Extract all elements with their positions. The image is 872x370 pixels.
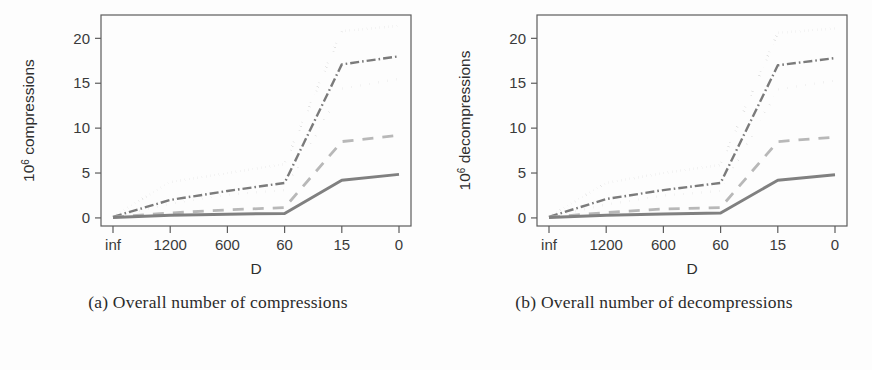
- x-tick-label: 1200: [154, 236, 187, 253]
- chart-a-svg: 05101520inf120060060150D106 compressions: [0, 0, 436, 290]
- x-tick-label: inf: [105, 236, 122, 253]
- svg-text:106 decompressions: 106 decompressions: [456, 50, 473, 190]
- caption-b: (b) Overall number of decompressions: [436, 292, 872, 313]
- series-group: [549, 28, 835, 217]
- plot-b: 05101520inf120060060150D106 decompressio…: [436, 0, 872, 290]
- series-line-series-1-dotted-top: [549, 28, 835, 216]
- x-tick-label: 600: [215, 236, 240, 253]
- series-line-series-3-dotted-sparse: [549, 81, 835, 217]
- series-line-series-2-dashdot: [549, 58, 835, 217]
- series-line-series-5-solid: [549, 175, 835, 218]
- figure-container: 05101520inf120060060150D106 compressions…: [0, 0, 872, 370]
- y-tick-label: 20: [73, 30, 90, 47]
- subfigure-b: 05101520inf120060060150D106 decompressio…: [436, 0, 872, 370]
- x-tick-label: 15: [333, 236, 350, 253]
- x-tick-label: 0: [831, 236, 839, 253]
- y-tick-label: 5: [82, 164, 90, 181]
- y-tick-label: 20: [509, 30, 526, 47]
- x-tick-label: inf: [541, 236, 558, 253]
- y-tick-label: 15: [73, 74, 90, 91]
- y-tick-label: 15: [509, 74, 526, 91]
- series-line-series-3-dotted-sparse: [113, 79, 399, 217]
- y-tick-label: 0: [82, 209, 90, 226]
- chart-b-svg: 05101520inf120060060150D106 decompressio…: [436, 0, 872, 290]
- series-line-series-2-dashdot: [113, 56, 399, 217]
- x-axis-title: D: [686, 260, 697, 277]
- y-tick-label: 10: [73, 119, 90, 136]
- caption-a: (a) Overall number of compressions: [0, 292, 436, 313]
- x-tick-label: 60: [712, 236, 729, 253]
- subfigure-a: 05101520inf120060060150D106 compressions…: [0, 0, 436, 370]
- x-tick-label: 15: [769, 236, 786, 253]
- y-axis-title: 106 compressions: [20, 59, 37, 182]
- y-tick-label: 0: [518, 209, 526, 226]
- y-axis-title: 106 decompressions: [456, 50, 473, 190]
- plot-a: 05101520inf120060060150D106 compressions: [0, 0, 436, 290]
- x-tick-label: 1200: [590, 236, 623, 253]
- y-tick-label: 10: [509, 119, 526, 136]
- x-tick-label: 0: [395, 236, 403, 253]
- series-line-series-5-solid: [113, 174, 399, 217]
- series-line-series-4-dashed-light: [549, 137, 835, 217]
- svg-text:106 compressions: 106 compressions: [20, 59, 37, 182]
- series-line-series-4-dashed-light: [113, 135, 399, 217]
- x-tick-label: 60: [276, 236, 293, 253]
- x-tick-label: 600: [651, 236, 676, 253]
- x-axis-title: D: [250, 260, 261, 277]
- y-tick-label: 5: [518, 164, 526, 181]
- series-group: [113, 26, 399, 218]
